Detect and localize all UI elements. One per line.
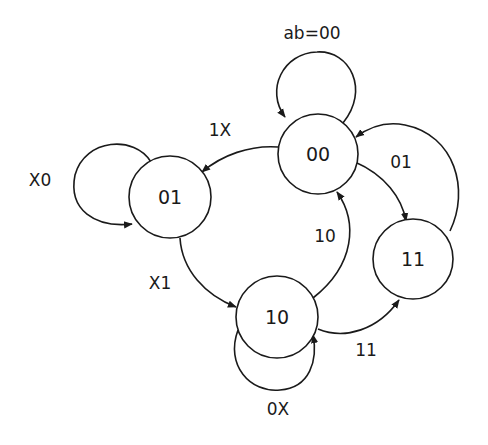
label-edge-10-11: 11 xyxy=(355,340,377,360)
label-self-01: X0 xyxy=(29,170,51,190)
state-00-label: 00 xyxy=(306,143,330,165)
state-11-label: 11 xyxy=(401,248,425,270)
state-10-label: 10 xyxy=(265,306,289,328)
edge-00-to-01 xyxy=(202,147,278,172)
edge-01-to-10 xyxy=(180,238,236,307)
state-01-label: 01 xyxy=(158,186,182,208)
state-00: 00 xyxy=(278,114,358,194)
state-diagram: 00 01 10 11 ab=00 1X X0 X1 0X 10 11 01 xyxy=(0,0,488,445)
self-loop-00 xyxy=(277,52,356,123)
label-self-00: ab=00 xyxy=(283,23,340,43)
state-11: 11 xyxy=(373,219,453,299)
label-edge-01-10: X1 xyxy=(149,273,171,293)
label-edge-00-01: 1X xyxy=(209,120,232,140)
state-01: 01 xyxy=(129,156,211,238)
label-edge-10-00: 10 xyxy=(314,226,336,246)
label-edge-00-11: 01 xyxy=(390,152,412,172)
edge-10-to-11 xyxy=(318,300,399,333)
label-self-10: 0X xyxy=(267,399,290,419)
state-10: 10 xyxy=(236,276,318,358)
edge-11-to-00 xyxy=(356,124,459,231)
